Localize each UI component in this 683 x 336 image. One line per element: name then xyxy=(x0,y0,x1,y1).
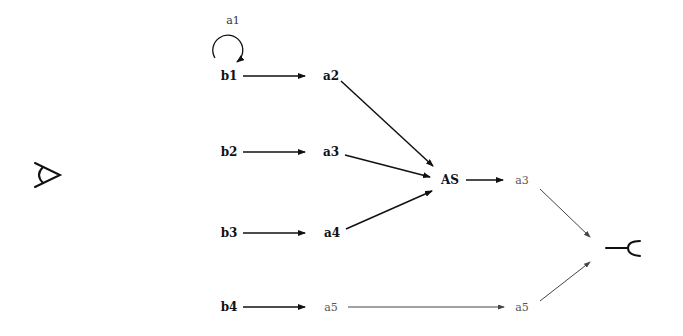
node-AS: AS xyxy=(441,173,459,187)
edge-a3-AS xyxy=(345,155,430,177)
node-b4: b4 xyxy=(221,300,238,314)
node-a5-left: a5 xyxy=(324,301,338,314)
line-arc-icon xyxy=(606,241,640,256)
diagram-canvas xyxy=(0,0,683,336)
node-a5-right: a5 xyxy=(515,301,529,314)
label-a1: a1 xyxy=(226,14,240,27)
edge-a5-right xyxy=(540,262,590,301)
node-b2: b2 xyxy=(221,145,238,159)
node-b1: b1 xyxy=(221,69,238,83)
sideways-a-icon xyxy=(35,163,60,187)
node-b3: b3 xyxy=(221,226,238,240)
node-a3-right: a3 xyxy=(515,174,529,187)
node-a3: a3 xyxy=(323,145,339,159)
edge-a4-AS xyxy=(346,191,432,229)
edge-a2-AS xyxy=(341,81,433,166)
self-loop-arrow xyxy=(213,35,243,62)
node-a4: a4 xyxy=(324,226,340,240)
node-a2: a2 xyxy=(323,69,339,83)
edge-a3-right xyxy=(540,189,590,237)
